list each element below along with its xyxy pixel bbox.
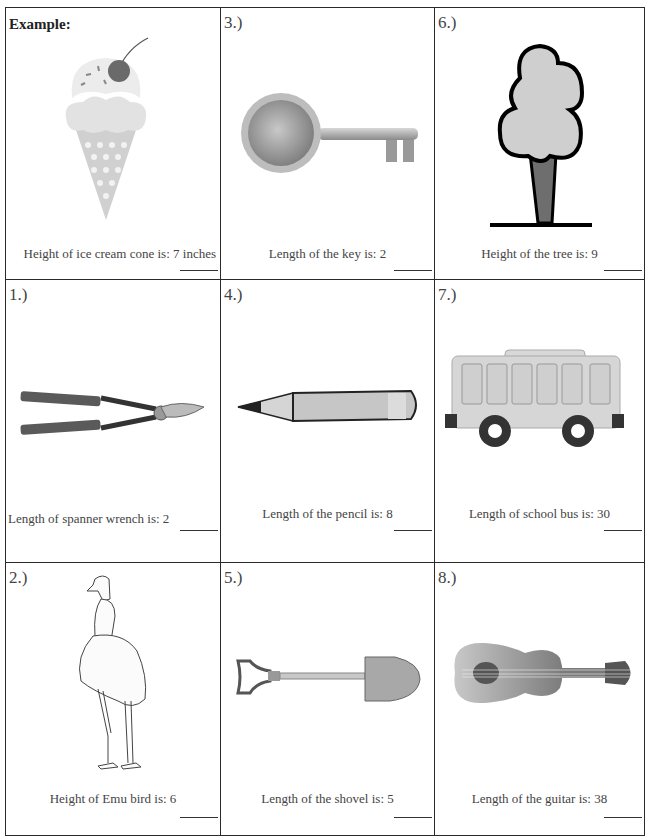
guitar-icon <box>435 633 644 713</box>
question-label: Height of Emu bird is: 6 <box>6 791 220 807</box>
answer-blank[interactable] <box>394 817 432 818</box>
key-icon <box>221 88 434 173</box>
question-label: Length of the guitar is: 38 <box>435 791 644 807</box>
answer-blank[interactable] <box>604 270 642 271</box>
cell-number: 4.) <box>224 285 242 305</box>
cell-number: 1.) <box>9 285 27 305</box>
cell-number: 6.) <box>438 13 456 33</box>
answer-blank[interactable] <box>180 530 218 531</box>
question-label: Length of the pencil is: 8 <box>221 506 434 522</box>
emu-icon <box>6 571 220 776</box>
cell-q8: 8.) Length of the guitar is: 38 <box>435 563 644 835</box>
question-label: Length of the shovel is: 5 <box>221 791 434 807</box>
cell-number: 8.) <box>438 568 456 588</box>
cell-q7: 7.) Length of school bus is: 30 <box>435 280 644 563</box>
tree-icon <box>435 38 644 233</box>
loppers-icon <box>6 385 220 445</box>
cell-q4: 4.) Length of the pencil is: 8 <box>221 280 435 563</box>
answer-blank[interactable] <box>180 270 218 271</box>
question-label: Length of the key is: 2 <box>221 246 434 262</box>
cell-q3: 3.) Length of the key is: 2 <box>221 8 435 280</box>
cell-q2: 2.) Height of Emu bird is: 6 <box>6 563 221 835</box>
cell-number: 5.) <box>224 568 242 588</box>
school-bus-icon <box>435 348 644 453</box>
cell-example: Example: Height of ice cream cone is: 7 … <box>6 8 221 280</box>
question-label: Length of school bus is: 30 <box>435 506 644 522</box>
answer-blank[interactable] <box>604 530 642 531</box>
question-label: Height of ice cream cone is: 7 inches <box>24 246 216 262</box>
cell-q6: 6.) Height of the tree is: 9 <box>435 8 644 280</box>
question-label: Height of the tree is: 9 <box>435 246 644 262</box>
shovel-icon <box>221 651 434 706</box>
worksheet-grid: Example: Height of ice cream cone is: 7 … <box>5 7 645 836</box>
answer-blank[interactable] <box>394 530 432 531</box>
answer-blank[interactable] <box>394 270 432 271</box>
cell-q1: 1.) Length of spanner wrench is: 2 <box>6 280 221 563</box>
cell-number: 7.) <box>438 285 456 305</box>
cell-q5: 5.) Length of the shovel is: 5 <box>221 563 435 835</box>
cell-number: 3.) <box>224 13 242 33</box>
question-label: Length of spanner wrench is: 2 <box>8 511 220 527</box>
pencil-icon <box>221 385 434 425</box>
answer-blank[interactable] <box>604 817 642 818</box>
ice-cream-cone-icon <box>6 30 220 225</box>
answer-blank[interactable] <box>180 817 218 818</box>
